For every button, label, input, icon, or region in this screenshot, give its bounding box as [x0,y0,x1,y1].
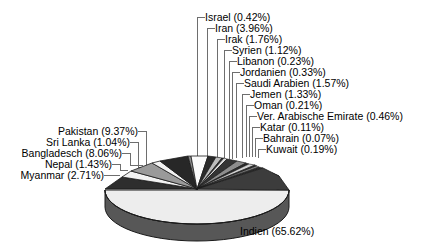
leader-line-nepal [112,165,128,171]
label-kuwait: Kuwait (0.19%) [266,144,337,155]
leader-line-irak [218,40,226,163]
label-myanmar: Myanmar (2.71%) [21,170,104,181]
leader-line-sri-lanka [130,143,152,168]
leader-line-bahrain [256,139,264,158]
leader-line-israel [198,18,206,173]
pie-chart-graphic [0,0,422,245]
leader-line-kuwait [259,150,267,158]
label-indien: Indien (65.62%) [240,226,314,237]
leader-line-iran [208,29,216,169]
leader-line-myanmar [104,175,120,176]
leader-line-libanon [230,62,238,160]
leader-line-bangladesch [122,154,143,166]
pie-chart-figure: Israel (0.42%) Iran (3.96%) Irak (1.76%)… [0,0,422,245]
leader-line-syrien [225,51,233,161]
